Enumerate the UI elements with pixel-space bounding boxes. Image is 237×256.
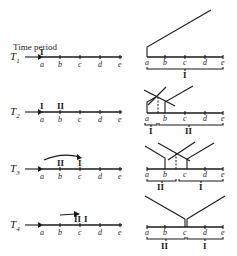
svg-text:II: II (74, 214, 82, 224)
svg-text:I: I (203, 241, 207, 251)
svg-text:a: a (145, 170, 149, 179)
svg-text:e: e (118, 172, 122, 181)
svg-text:c: c (78, 228, 82, 237)
svg-text:c: c (183, 228, 187, 237)
svg-text:c: c (183, 114, 187, 123)
svg-text:b: b (163, 114, 167, 123)
svg-text:b: b (58, 228, 62, 237)
svg-text:II: II (185, 126, 193, 136)
svg-text:b: b (163, 170, 167, 179)
svg-text:d: d (203, 114, 208, 123)
t1-bid-rent-curve (147, 10, 211, 57)
svg-text:e: e (221, 228, 225, 237)
svg-text:e: e (221, 114, 225, 123)
svg-text:I: I (78, 158, 82, 168)
t4-label: T4 (10, 218, 20, 233)
svg-text:I: I (40, 101, 44, 111)
svg-text:d: d (98, 60, 103, 69)
svg-text:e: e (118, 115, 122, 124)
svg-text:a: a (40, 172, 44, 181)
row-t4: T4 a b c d e II I a b c d e II I (10, 196, 225, 251)
row-t2: T2 a b c d e I II a b c d e I II (10, 86, 225, 136)
svg-text:e: e (118, 60, 122, 69)
time-period-diagram: Time period T1 a b c d e I a b c d e I T… (0, 0, 237, 256)
svg-text:a: a (145, 114, 149, 123)
svg-text:b: b (58, 172, 62, 181)
svg-text:b: b (58, 115, 62, 124)
svg-text:d: d (203, 170, 208, 179)
svg-text:I: I (149, 126, 153, 136)
svg-text:a: a (145, 58, 149, 67)
svg-text:a: a (40, 60, 44, 69)
svg-text:a: a (145, 228, 149, 237)
svg-text:c: c (78, 172, 82, 181)
svg-text:II: II (161, 241, 169, 251)
svg-text:e: e (221, 58, 225, 67)
time-period-title: Time period (13, 42, 57, 52)
svg-text:e: e (221, 170, 225, 179)
svg-text:c: c (78, 60, 82, 69)
t2-label: T2 (10, 105, 20, 120)
svg-text:c: c (78, 115, 82, 124)
svg-text:c: c (183, 170, 187, 179)
t1-label: T1 (10, 50, 20, 65)
t1-marker-I: I (40, 47, 44, 57)
t3-label: T3 (10, 162, 20, 177)
svg-text:e: e (118, 228, 122, 237)
svg-text:a: a (40, 115, 44, 124)
svg-text:II: II (157, 182, 165, 192)
svg-text:II: II (57, 158, 65, 168)
svg-text:a: a (40, 228, 44, 237)
svg-text:d: d (203, 228, 208, 237)
svg-text:d: d (203, 58, 208, 67)
svg-text:d: d (98, 228, 103, 237)
svg-text:d: d (98, 115, 103, 124)
row-t3: T3 a b c d e II I a b c d e II I (10, 142, 225, 192)
svg-text:I: I (183, 70, 187, 80)
svg-text:b: b (58, 60, 62, 69)
svg-text:b: b (163, 228, 167, 237)
svg-text:I: I (199, 182, 203, 192)
svg-text:II: II (57, 101, 65, 111)
svg-text:c: c (183, 58, 187, 67)
svg-text:b: b (163, 58, 167, 67)
svg-text:I: I (84, 214, 88, 224)
svg-text:d: d (98, 172, 103, 181)
